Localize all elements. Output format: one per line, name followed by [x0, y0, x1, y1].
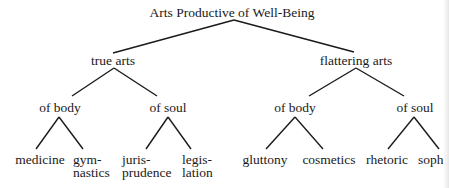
page-edge-shadow: [443, 0, 449, 188]
legislation-line-2: lation: [182, 166, 213, 179]
edge-flattering-soul: [356, 68, 404, 96]
flattering-of-soul-node: of soul: [396, 101, 433, 114]
edge-true-soul-jurisprudence: [146, 117, 168, 149]
edge-flat-soul-soph: [414, 117, 439, 149]
edge-flattering-body: [309, 68, 356, 96]
edge-true-soul-legislation: [168, 117, 191, 149]
cosmetics-leaf: cosmetics: [302, 153, 355, 166]
legislation-leaf: legis- lation: [182, 153, 213, 179]
true-arts-of-body-node: of body: [39, 101, 81, 114]
edge-true-body-gymnastics: [59, 117, 83, 149]
edge-true-body-medicine: [36, 117, 59, 149]
edge-flat-body-gluttony: [266, 117, 295, 149]
edge-root-flattering-arts: [234, 20, 354, 52]
flattering-of-body-node: of body: [274, 101, 316, 114]
rhetoric-leaf: rhetoric: [366, 153, 408, 166]
soph-leaf: soph: [418, 153, 444, 166]
gluttony-leaf: gluttony: [242, 153, 287, 166]
edge-true-arts-soul: [114, 68, 157, 96]
edge-flat-body-cosmetics: [295, 117, 323, 149]
root-node: Arts Productive of Well-Being: [150, 6, 315, 19]
gymnastics-line-2: nastics: [73, 166, 110, 179]
edge-true-arts-body: [72, 68, 114, 96]
edge-flat-soul-rhetoric: [388, 117, 414, 149]
medicine-leaf: medicine: [15, 153, 64, 166]
true-arts-of-soul-node: of soul: [149, 101, 186, 114]
flattering-arts-node: flattering arts: [320, 54, 392, 67]
edge-root-true-arts: [113, 20, 234, 53]
gymnastics-leaf: gym- nastics: [73, 153, 110, 179]
jurisprudence-leaf: juris- prudence: [122, 153, 171, 179]
true-arts-node: true arts: [91, 54, 135, 67]
jurisprudence-line-2: prudence: [122, 166, 171, 179]
